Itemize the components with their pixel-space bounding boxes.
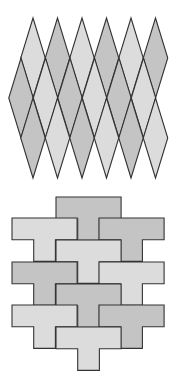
t-tile	[56, 327, 121, 370]
rhombus-tiling	[9, 18, 168, 178]
tiling-figure	[0, 0, 180, 378]
tiling-diagram	[0, 0, 180, 378]
t-shape-tiling	[12, 197, 164, 370]
